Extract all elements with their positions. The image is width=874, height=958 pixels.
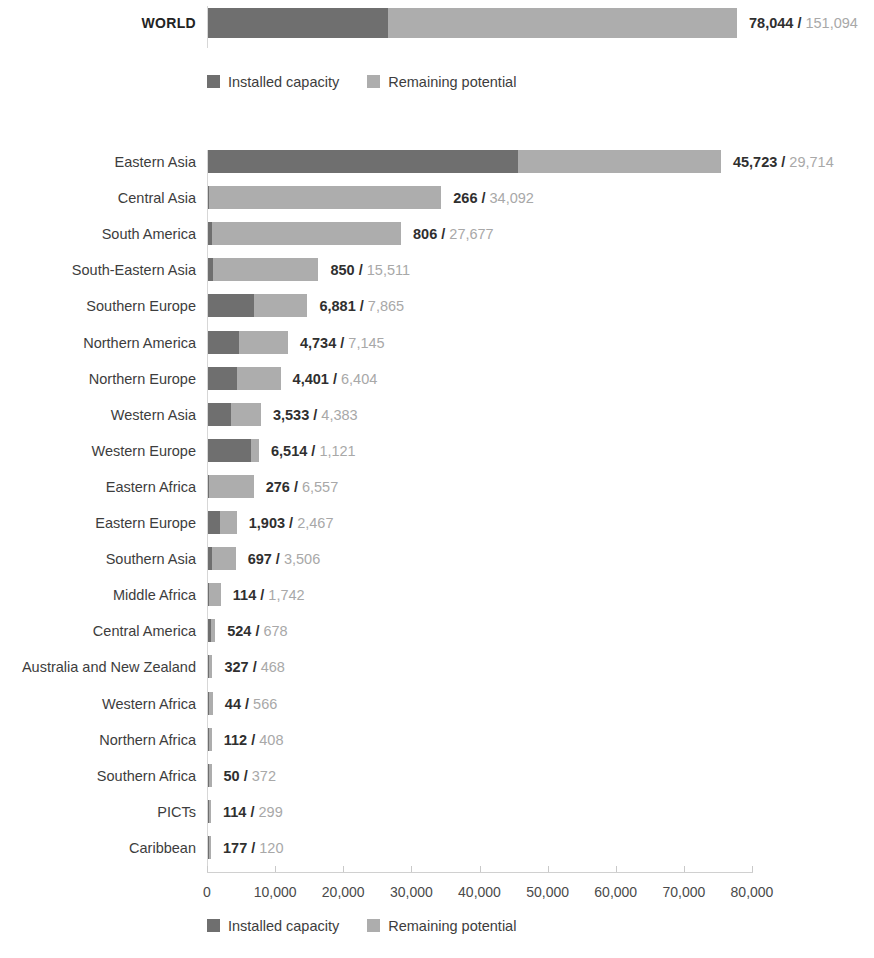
x-axis-tick-label: 50,000 (526, 884, 569, 900)
x-axis-tick-label: 20,000 (322, 884, 365, 900)
installed-value: 1,903 (249, 515, 285, 531)
value-separator: / (477, 190, 489, 206)
chart-row: Middle Africa114 / 1,742 (0, 583, 874, 607)
row-value-label: 6,514 / 1,121 (271, 439, 356, 463)
installed-value: 177 (223, 840, 247, 856)
category-label: Eastern Europe (0, 511, 196, 535)
value-separator: / (307, 443, 319, 459)
x-axis-tick (616, 866, 617, 872)
remaining-value: 2,467 (297, 515, 333, 531)
remaining-value: 372 (252, 768, 276, 784)
row-value-label: 3,533 / 4,383 (273, 403, 358, 427)
installed-capacity-segment (207, 439, 251, 462)
x-axis-tick (548, 866, 549, 872)
value-separator: / (246, 804, 258, 820)
remaining-potential-segment (212, 547, 236, 570)
chart-row: South-Eastern Asia850 / 15,511 (0, 258, 874, 282)
world-remaining-value: 151,094 (805, 15, 857, 31)
installed-value: 524 (227, 623, 251, 639)
stacked-bar (207, 258, 318, 282)
legend-bottom: Installed capacity Remaining potential (207, 918, 516, 938)
row-value-label: 806 / 27,677 (413, 222, 494, 246)
x-axis-tick (752, 866, 753, 872)
value-separator: / (290, 479, 302, 495)
installed-value: 45,723 (733, 154, 777, 170)
row-value-label: 4,734 / 7,145 (300, 331, 385, 355)
legend-item-remaining-bottom: Remaining potential (367, 918, 516, 938)
remaining-value: 34,092 (490, 190, 534, 206)
row-value-label: 697 / 3,506 (248, 547, 321, 571)
installed-value: 114 (223, 804, 246, 820)
row-value-label: 177 / 120 (223, 836, 284, 860)
category-label: Australia and New Zealand (0, 655, 196, 679)
chart-row: Northern Europe4,401 / 6,404 (0, 367, 874, 391)
world-bar (207, 8, 737, 38)
x-axis-tick (343, 866, 344, 872)
category-label: Southern Asia (0, 547, 196, 571)
stacked-bar (207, 150, 721, 174)
stacked-bar (207, 331, 288, 355)
legend-item-installed-bottom: Installed capacity (207, 918, 339, 938)
chart-row: Western Africa44 / 566 (0, 692, 874, 716)
installed-value: 50 (224, 768, 240, 784)
category-label: Northern Africa (0, 728, 196, 752)
installed-value: 114 (233, 587, 256, 603)
category-label: Western Asia (0, 403, 196, 427)
category-label: Central Asia (0, 186, 196, 210)
row-value-label: 112 / 408 (224, 728, 284, 752)
stacked-bar (207, 511, 237, 535)
value-separator: / (249, 659, 261, 675)
installed-capacity-segment (207, 294, 254, 317)
chart-row: Southern Europe6,881 / 7,865 (0, 294, 874, 318)
x-axis-tick-label: 0 (203, 884, 211, 900)
remaining-value: 468 (261, 659, 285, 675)
remaining-potential-segment (213, 258, 319, 281)
remaining-value: 678 (263, 623, 287, 639)
chart-row: Eastern Asia45,723 / 29,714 (0, 150, 874, 174)
category-label: Southern Europe (0, 294, 196, 318)
legend-swatch-installed-icon (207, 919, 220, 932)
chart-row: Eastern Europe1,903 / 2,467 (0, 511, 874, 535)
chart-row: Northern America4,734 / 7,145 (0, 331, 874, 355)
stacked-bar (207, 547, 236, 571)
installed-capacity-segment (207, 403, 231, 426)
row-value-label: 524 / 678 (227, 619, 288, 643)
x-axis-tick (207, 866, 208, 872)
category-label: Central America (0, 619, 196, 643)
row-value-label: 327 / 468 (224, 655, 285, 679)
stacked-bar (207, 583, 221, 607)
x-axis-tick (411, 866, 412, 872)
category-label: Eastern Africa (0, 475, 196, 499)
remaining-value: 120 (259, 840, 283, 856)
remaining-potential-segment (209, 728, 212, 751)
stacked-bar-chart: WORLD 78,044 / 151,094 Installed capacit… (0, 0, 874, 958)
row-value-label: 44 / 566 (225, 692, 277, 716)
stacked-bar (207, 186, 441, 210)
x-axis-tick-label: 30,000 (390, 884, 433, 900)
category-label: Southern Africa (0, 764, 196, 788)
remaining-value: 408 (259, 732, 283, 748)
value-separator: / (251, 623, 263, 639)
remaining-value: 6,557 (302, 479, 338, 495)
legend-label-remaining-bottom: Remaining potential (388, 918, 516, 934)
world-value-label: 78,044 / 151,094 (749, 8, 858, 38)
installed-value: 850 (330, 262, 354, 278)
legend-spacer (339, 918, 367, 919)
remaining-potential-segment (209, 692, 213, 715)
remaining-value: 1,742 (268, 587, 304, 603)
category-label: Caribbean (0, 836, 196, 860)
category-label: Eastern Asia (0, 150, 196, 174)
chart-row: Australia and New Zealand327 / 468 (0, 655, 874, 679)
installed-value: 276 (266, 479, 290, 495)
remaining-value: 15,511 (367, 262, 410, 278)
x-axis-tick-label: 10,000 (254, 884, 297, 900)
category-label: Middle Africa (0, 583, 196, 607)
installed-capacity-segment (207, 511, 220, 534)
remaining-potential-segment (209, 583, 221, 606)
value-separator: / (777, 154, 789, 170)
remaining-potential-segment (209, 836, 211, 859)
chart-row: Southern Africa50 / 372 (0, 764, 874, 788)
remaining-value: 1,121 (319, 443, 355, 459)
row-value-label: 276 / 6,557 (266, 475, 339, 499)
stacked-bar (207, 475, 254, 499)
